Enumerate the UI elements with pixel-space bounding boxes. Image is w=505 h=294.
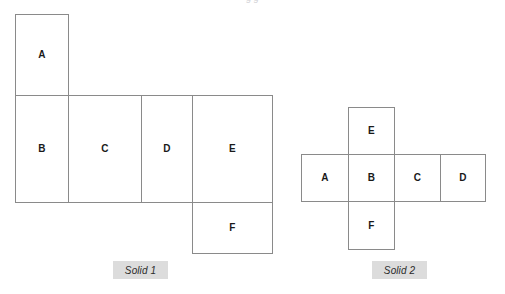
solid-2-face-b: B	[348, 154, 395, 202]
solid-2-face-a: A	[301, 154, 349, 202]
solid-1-face-c: C	[68, 95, 142, 203]
face-label: A	[321, 173, 328, 183]
solid-2-face-f: F	[348, 201, 395, 250]
face-label: B	[38, 144, 45, 154]
face-label: F	[368, 221, 374, 231]
face-label: C	[101, 144, 108, 154]
face-label: C	[414, 173, 421, 183]
face-label: E	[229, 144, 236, 154]
solid-1-face-e: E	[192, 95, 273, 203]
solid-2-caption: Solid 2	[372, 261, 427, 279]
face-label: B	[368, 173, 375, 183]
solid-1-face-f: F	[192, 202, 273, 254]
solid-2-face-d: D	[440, 154, 486, 202]
face-label: F	[229, 223, 235, 233]
face-label: A	[38, 50, 45, 60]
face-label: D	[163, 144, 170, 154]
solid-1-face-a: A	[15, 14, 69, 96]
solid-2-face-c: C	[394, 154, 441, 202]
solid-2-face-e: E	[348, 107, 395, 155]
clipped-header-text: g g	[0, 0, 505, 3]
face-label: D	[459, 173, 466, 183]
diagram-canvas: g g ABCDEFSolid 1EABCDFSolid 2	[0, 0, 505, 294]
solid-1-caption: Solid 1	[113, 261, 168, 279]
face-label: E	[368, 126, 375, 136]
solid-1-face-b: B	[15, 95, 69, 203]
solid-1-face-d: D	[141, 95, 193, 203]
